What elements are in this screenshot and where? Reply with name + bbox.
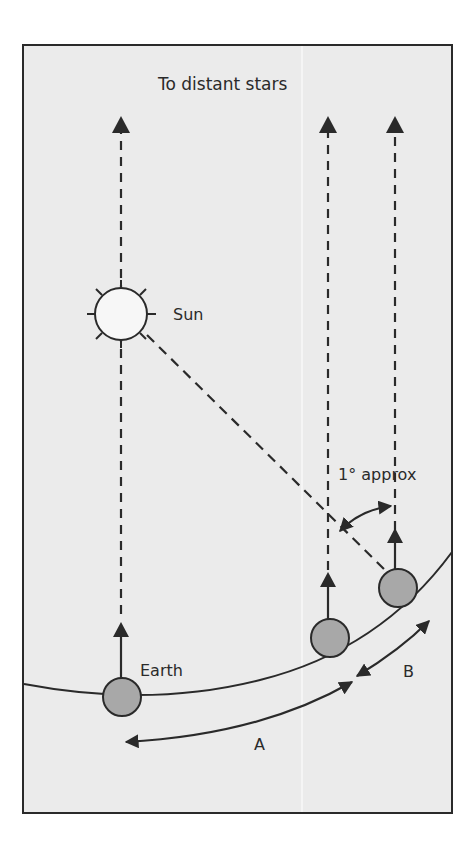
sun-label: Sun — [173, 305, 203, 324]
sun-icon — [87, 280, 156, 348]
arc-a-label: A — [254, 735, 265, 754]
earth-label: Earth — [140, 661, 183, 680]
earth-position-2 — [311, 619, 349, 657]
angle-label: 1° approx — [338, 465, 416, 484]
parallax-diagram: To distant stars Sun — [0, 0, 476, 843]
earth-position-3 — [379, 569, 417, 607]
earth-position-1 — [103, 678, 141, 716]
arc-b-label: B — [403, 662, 414, 681]
diagram-frame — [23, 45, 452, 813]
title-label: To distant stars — [157, 74, 288, 94]
